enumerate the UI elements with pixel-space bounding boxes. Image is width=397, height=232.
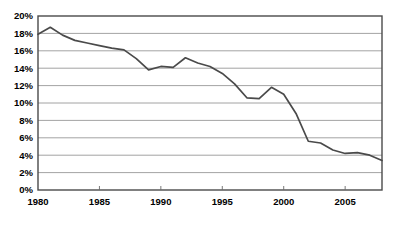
x-tick-label: 1995 (212, 196, 234, 207)
y-tick-label: 0% (19, 184, 33, 195)
x-tick-label: 1985 (89, 196, 111, 207)
y-tick-label: 8% (19, 115, 33, 126)
y-tick-label: 12% (14, 80, 34, 91)
x-tick-label: 1990 (150, 196, 171, 207)
y-tick-label: 16% (14, 45, 34, 56)
y-tick-label: 4% (19, 150, 33, 161)
x-tick-label: 2000 (273, 196, 294, 207)
y-tick-label: 6% (19, 132, 33, 143)
y-tick-label: 14% (14, 63, 34, 74)
y-tick-label: 18% (14, 28, 34, 39)
x-tick-label: 2005 (335, 196, 357, 207)
line-chart: 20%18%16%14%12%10%8%6%4%2%0% 19801985199… (0, 0, 397, 232)
y-tick-label: 2% (19, 167, 33, 178)
y-tick-label: 20% (14, 10, 34, 21)
chart-canvas: 20%18%16%14%12%10%8%6%4%2%0% 19801985199… (0, 0, 397, 232)
x-tick-label: 1980 (27, 196, 48, 207)
y-tick-label: 10% (14, 97, 34, 108)
